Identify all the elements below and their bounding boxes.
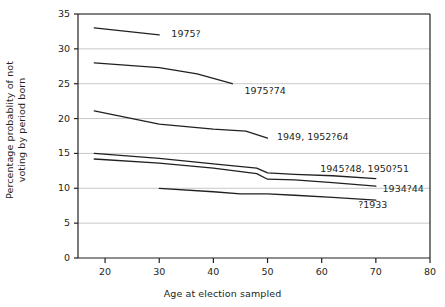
x-tick-label: 80 bbox=[417, 266, 443, 277]
y-tick-label: 25 bbox=[48, 78, 70, 89]
series-label-3: 1945?48, 1950?51 bbox=[320, 163, 409, 174]
x-tick-label: 30 bbox=[146, 266, 172, 277]
axis-ticks-group bbox=[74, 14, 430, 263]
x-tick-label: 40 bbox=[200, 266, 226, 277]
series-label-4: 1934?44 bbox=[383, 183, 424, 194]
series-label-0: 1975? bbox=[171, 28, 200, 39]
y-tick-label: 35 bbox=[48, 8, 70, 19]
y-tick-label: 5 bbox=[48, 217, 70, 228]
series-label-5: ?1933 bbox=[358, 199, 387, 210]
x-axis-title: Age at election sampled bbox=[0, 288, 445, 299]
x-tick-label: 20 bbox=[92, 266, 118, 277]
chart-figure: Percentage probablity of not voting by p… bbox=[0, 0, 445, 307]
x-tick-label: 50 bbox=[255, 266, 281, 277]
y-tick-label: 15 bbox=[48, 147, 70, 158]
y-tick-label: 0 bbox=[48, 252, 70, 263]
series-label-2: 1949, 1952?64 bbox=[277, 131, 349, 142]
y-tick-label: 10 bbox=[48, 182, 70, 193]
axis-lines-group bbox=[78, 14, 430, 258]
data-series-group bbox=[94, 28, 376, 200]
series-line-1 bbox=[94, 63, 232, 84]
x-tick-label: 60 bbox=[309, 266, 335, 277]
y-axis-title: Percentage probablity of not voting by p… bbox=[4, 50, 28, 210]
series-line-5 bbox=[159, 188, 376, 200]
y-tick-label: 20 bbox=[48, 113, 70, 124]
series-label-1: 1975?74 bbox=[244, 85, 285, 96]
x-tick-label: 70 bbox=[363, 266, 389, 277]
series-line-0 bbox=[94, 28, 159, 35]
y-tick-label: 30 bbox=[48, 43, 70, 54]
series-line-2 bbox=[94, 111, 267, 138]
